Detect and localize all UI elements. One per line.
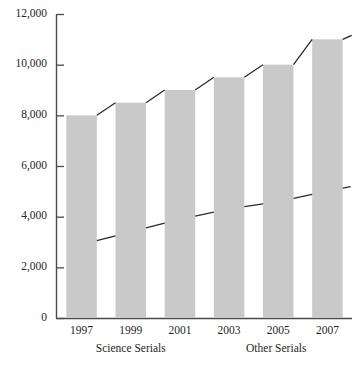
x-tick-label: 1997 <box>70 324 93 336</box>
line-segment <box>146 223 165 228</box>
line-segment <box>195 212 214 216</box>
line-segment <box>293 194 312 198</box>
line-segment <box>293 39 312 64</box>
y-axis-ticks <box>57 15 64 319</box>
line-segment <box>97 103 116 116</box>
line-segment <box>343 187 351 189</box>
y-tick-label: 2,000 <box>21 260 47 273</box>
x-tick-label: 2007 <box>316 324 339 336</box>
x-tick-label: 2003 <box>218 324 241 336</box>
x-tick-label: 1999 <box>119 324 142 336</box>
line-segment <box>244 65 263 78</box>
bar <box>312 39 342 318</box>
bar <box>165 90 195 318</box>
line-segment <box>195 77 214 90</box>
x-tick-label: 2001 <box>168 324 191 336</box>
y-tick-label: 4,000 <box>21 209 47 222</box>
y-tick-label: 12,000 <box>15 7 47 20</box>
bar <box>214 77 244 318</box>
x-tick-label: 2005 <box>267 324 290 336</box>
chart-container: 02,0004,0006,0008,00010,00012,000 199719… <box>0 0 361 370</box>
y-tick-label: 10,000 <box>15 57 47 70</box>
bar <box>263 65 293 318</box>
group-label: Science Serials <box>96 342 166 354</box>
group-labels: Science SerialsOther Serials <box>96 342 307 354</box>
y-tick-label: 6,000 <box>21 159 47 172</box>
y-axis-tick-labels: 02,0004,0006,0008,00010,00012,000 <box>15 7 47 323</box>
bar-series <box>66 39 342 318</box>
line-segment <box>343 35 352 39</box>
serials-bar-chart: 02,0004,0006,0008,00010,00012,000 199719… <box>0 0 361 370</box>
x-axis-tick-labels: 199719992001200320052007 <box>70 324 339 336</box>
bar <box>66 115 96 318</box>
line-segment <box>244 204 263 207</box>
y-tick-label: 0 <box>41 311 47 323</box>
y-tick-label: 8,000 <box>21 108 47 121</box>
group-label: Other Serials <box>246 342 307 354</box>
line-segment <box>97 236 116 241</box>
bar <box>116 103 146 318</box>
line-segment <box>146 90 165 103</box>
